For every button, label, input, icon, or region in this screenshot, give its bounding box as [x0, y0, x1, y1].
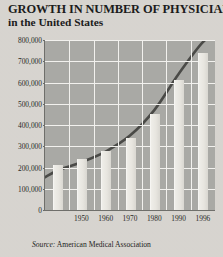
gridline-vertical — [118, 40, 119, 210]
page-subtitle: in the United States — [8, 16, 218, 29]
y-axis-tick-label: 600,000 — [18, 78, 42, 87]
gridline-vertical — [69, 40, 70, 210]
gridline-vertical — [94, 40, 95, 210]
bar — [174, 80, 184, 210]
x-axis-tick-label: 1990 — [171, 214, 186, 223]
plot-area — [45, 40, 215, 210]
page-title: GROWTH IN NUMBER OF PHYSICIANS — [8, 2, 218, 16]
gridline-horizontal — [45, 125, 215, 126]
bar — [77, 159, 87, 210]
bar — [53, 165, 63, 210]
y-axis-labels: 0100,000200,000300,000400,000500,000600,… — [0, 34, 44, 224]
gridline-horizontal — [45, 61, 215, 62]
x-axis-tick-label: 1960 — [98, 214, 113, 223]
x-axis-tick-label: 1996 — [196, 214, 211, 223]
bar — [198, 53, 208, 210]
x-axis-tick-label: 1950 — [74, 214, 89, 223]
gridline-horizontal — [45, 40, 215, 41]
gridline-vertical — [191, 40, 192, 210]
gridline-horizontal — [45, 104, 215, 105]
chart: 0100,000200,000300,000400,000500,000600,… — [0, 34, 223, 224]
y-axis-tick-label: 700,000 — [18, 57, 42, 66]
source-note: Source: American Medical Association — [32, 240, 151, 249]
gridline-horizontal — [45, 83, 215, 84]
y-axis-tick-label: 100,000 — [18, 184, 42, 193]
y-axis-tick-label: 800,000 — [18, 36, 42, 45]
bar — [150, 114, 160, 210]
x-axis-line — [45, 210, 215, 211]
y-axis-tick-label: 300,000 — [18, 142, 42, 151]
x-axis-labels: 195019601970198019901996 — [45, 214, 215, 226]
bar — [101, 151, 111, 211]
bar — [126, 138, 136, 210]
y-axis-tick-label: 200,000 — [18, 163, 42, 172]
gridline-vertical — [166, 40, 167, 210]
source-text: American Medical Association — [55, 240, 151, 249]
y-axis-tick-label: 0 — [38, 206, 42, 215]
x-axis-tick-label: 1980 — [147, 214, 162, 223]
y-axis-tick-label: 500,000 — [18, 99, 42, 108]
chart-title-block: GROWTH IN NUMBER OF PHYSICIANS in the Un… — [8, 2, 218, 29]
source-label: Source: — [32, 240, 55, 249]
y-axis-tick-label: 400,000 — [18, 121, 42, 130]
gridline-vertical — [142, 40, 143, 210]
x-axis-tick-label: 1970 — [123, 214, 138, 223]
